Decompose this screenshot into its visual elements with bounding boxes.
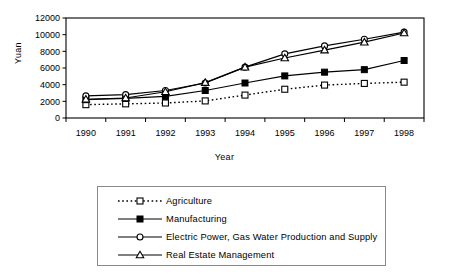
line-chart: Yuan Year 020004000600080001000012000 19… (0, 0, 449, 180)
x-tick-label: 1996 (315, 128, 335, 138)
x-tick-label: 1998 (394, 128, 414, 138)
y-tick-label: 4000 (40, 80, 60, 90)
data-point-marker (162, 100, 168, 106)
chart-figure: Yuan Year 020004000600080001000012000 19… (0, 0, 449, 279)
data-point-marker (401, 58, 407, 64)
x-axis-title: Year (0, 152, 449, 162)
legend-label: Manufacturing (166, 214, 227, 224)
data-point-marker (361, 80, 367, 86)
x-tick-label: 1990 (76, 128, 96, 138)
data-point-marker (361, 67, 367, 73)
y-tick-labels: 020004000600080001000012000 (35, 13, 60, 123)
legend-marker-sample (116, 211, 164, 227)
x-tick-label: 1995 (275, 128, 295, 138)
legend-label: Agriculture (166, 196, 212, 206)
x-tick-label: 1993 (195, 128, 215, 138)
chart-legend: AgricultureManufacturingElectric Power, … (97, 186, 386, 266)
data-point-marker (322, 82, 328, 88)
y-tick-label: 8000 (40, 47, 60, 57)
legend-marker-sample (116, 193, 164, 209)
data-series-group (82, 29, 408, 108)
open-circle-icon (137, 234, 143, 240)
data-point-marker (242, 92, 248, 98)
x-tick-label: 1992 (155, 128, 175, 138)
legend-item[interactable]: Electric Power, Gas Water Production and… (98, 227, 377, 247)
x-tick-label: 1991 (116, 128, 136, 138)
data-point-marker (282, 73, 288, 79)
data-point-marker (242, 80, 248, 86)
legend-item[interactable]: Real Estate Management (98, 245, 274, 265)
y-tick-label: 2000 (40, 97, 60, 107)
filled-square-icon (137, 216, 143, 222)
data-point-marker (322, 69, 328, 75)
x-tick-label: 1994 (235, 128, 255, 138)
data-point-marker (401, 79, 407, 85)
legend-marker-sample (116, 247, 164, 263)
legend-label: Real Estate Management (166, 250, 274, 260)
y-tick-label: 10000 (35, 30, 60, 40)
data-point-marker (202, 98, 208, 104)
plot-svg: 020004000600080001000012000 199019911992… (0, 0, 449, 150)
legend-marker-sample (116, 229, 164, 245)
x-tick-labels: 199019911992199319941995199619971998 (76, 128, 414, 138)
y-tick-label: 12000 (35, 13, 60, 23)
y-tick-label: 0 (55, 113, 60, 123)
data-point-marker (282, 86, 288, 92)
legend-item[interactable]: Agriculture (98, 191, 212, 211)
data-point-marker (202, 88, 208, 94)
legend-label: Electric Power, Gas Water Production and… (166, 232, 377, 242)
open-square-icon (137, 198, 143, 204)
y-tick-label: 6000 (40, 63, 60, 73)
x-tick-label: 1997 (354, 128, 374, 138)
legend-item[interactable]: Manufacturing (98, 209, 227, 229)
